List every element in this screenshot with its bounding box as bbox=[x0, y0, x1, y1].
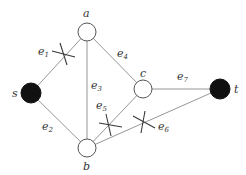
nodes bbox=[21, 23, 230, 157]
edge-e5 bbox=[87, 89, 143, 148]
label-e5: e5 bbox=[96, 99, 108, 113]
cut-mark-e6 bbox=[133, 111, 155, 133]
label-t: t bbox=[234, 83, 239, 96]
node-s bbox=[21, 83, 41, 103]
label-c: c bbox=[140, 67, 146, 80]
node-b bbox=[78, 139, 96, 157]
cut-mark-e1 bbox=[52, 43, 75, 65]
node-t bbox=[210, 79, 230, 99]
label-e6: e6 bbox=[158, 120, 170, 134]
label-s: s bbox=[12, 87, 18, 100]
label-e7: e7 bbox=[177, 70, 189, 84]
label-e4: e4 bbox=[117, 47, 128, 61]
label-e3: e3 bbox=[91, 79, 103, 93]
node-a bbox=[78, 23, 96, 41]
label-b: b bbox=[83, 160, 90, 173]
label-e1: e1 bbox=[38, 45, 49, 59]
label-a: a bbox=[83, 7, 90, 20]
edge-e1 bbox=[31, 32, 87, 93]
cut-mark-e5 bbox=[99, 114, 122, 136]
label-e2: e2 bbox=[42, 120, 54, 134]
edge-e2 bbox=[31, 93, 87, 148]
network-graph: s a b c t e1 e2 e3 e4 e5 e6 e7 bbox=[0, 0, 246, 175]
edges bbox=[31, 32, 220, 148]
node-c bbox=[134, 80, 152, 98]
node-labels: s a b c t bbox=[12, 7, 239, 173]
